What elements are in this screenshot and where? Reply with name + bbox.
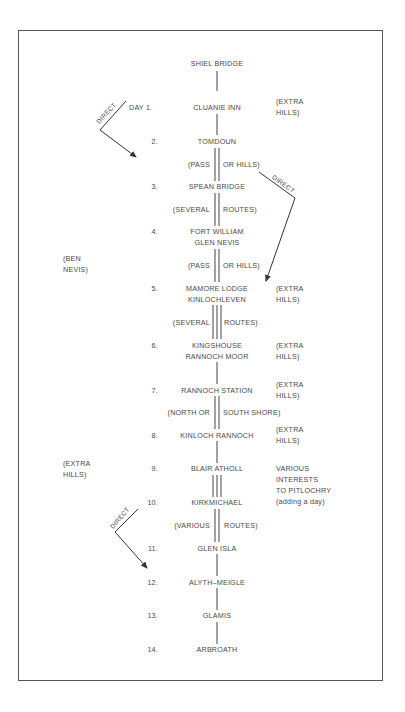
route-option-left-7: (VARIOUS xyxy=(174,520,210,531)
note-day9-b: INTERESTS xyxy=(276,474,318,485)
day-label-12: 12. xyxy=(147,577,158,588)
day-label-4: 4. xyxy=(152,226,158,237)
station-cluanie-inn: CLUANIE INN xyxy=(193,102,241,113)
station-tomdoun: TOMDOUN xyxy=(198,136,236,147)
note-day9-d: (adding a day) xyxy=(276,496,325,507)
station-kinlochleven: KINLOCHLEVEN xyxy=(188,294,246,305)
route-option-left-2: (SEVERAL xyxy=(173,204,210,215)
station-blair-atholl: BLAIR ATHOLL xyxy=(191,463,243,474)
route-option-left-1: (PASS xyxy=(188,159,210,170)
day-label-1: DAY 1. xyxy=(129,102,152,113)
station-kinloch-rannoch: KINLOCH RANNOCH xyxy=(180,430,253,441)
day-label-5: 5. xyxy=(152,283,158,294)
station-kingshouse: KINGSHOUSE xyxy=(192,340,242,351)
day-label-14: 14. xyxy=(147,644,158,655)
station-mamore-lodge: MAMORE LODGE xyxy=(186,283,248,294)
day-label-8: 8. xyxy=(152,430,158,441)
route-option-left-4: (SEVERAL xyxy=(173,317,210,328)
note-day7-b: HILLS) xyxy=(276,390,300,401)
station-rannoch-station: RANNOCH STATION xyxy=(181,385,252,396)
station-fort-william: FORT WILLIAM xyxy=(190,226,243,237)
note-day1-a: (EXTRA xyxy=(276,96,304,107)
note-day8-b: HILLS) xyxy=(276,435,300,446)
station-shiel-bridge: SHIEL BRIDGE xyxy=(191,58,243,69)
station-rannoch-moor: RANNOCH MOOR xyxy=(185,351,248,362)
left-note-ben-nevis-b: NEVIS) xyxy=(63,264,88,275)
note-day1-b: HILLS) xyxy=(276,107,300,118)
note-day6-a: (EXTRA xyxy=(276,340,304,351)
route-option-right-3: OR HILLS) xyxy=(223,260,260,271)
station-spean-bridge: SPEAN BRIDGE xyxy=(189,181,245,192)
station-glamis: GLAMIS xyxy=(203,610,231,621)
day-label-13: 13. xyxy=(147,610,158,621)
station-arbroath: ARBROATH xyxy=(196,644,237,655)
note-day5-a: (EXTRA xyxy=(276,283,304,294)
note-day9-c: TO PITLOCHRY xyxy=(276,485,331,496)
station-glen-nevis: GLEN NEVIS xyxy=(194,237,239,248)
route-option-right-4: ROUTES) xyxy=(224,317,258,328)
route-option-right-7: ROUTES) xyxy=(224,520,258,531)
left-note-extra-hills-a: (EXTRA xyxy=(63,458,91,469)
note-day5-b: HILLS) xyxy=(276,294,300,305)
route-option-left-5: (NORTH OR xyxy=(168,407,210,418)
route-option-right-2: ROUTES) xyxy=(223,204,257,215)
day-label-11: 11. xyxy=(148,543,158,554)
left-note-ben-nevis-a: (BEN xyxy=(63,253,81,264)
note-day8-a: (EXTRA xyxy=(276,424,304,435)
day-label-7: 7. xyxy=(152,385,158,396)
day-label-2: 2. xyxy=(152,136,158,147)
station-kirkmichael: KIRKMICHAEL xyxy=(192,497,243,508)
route-option-left-3: (PASS xyxy=(188,260,210,271)
note-day7-a: (EXTRA xyxy=(276,379,304,390)
note-day9-a: VARIOUS xyxy=(276,463,309,474)
day-label-10: 10. xyxy=(147,497,158,508)
day-label-9: 9. xyxy=(152,463,158,474)
note-day6-b: HILLS) xyxy=(276,351,300,362)
day-label-6: 6. xyxy=(152,340,158,351)
route-option-right-5: SOUTH SHORE) xyxy=(223,407,281,418)
left-note-extra-hills-b: HILLS) xyxy=(63,469,87,480)
station-alyth-meigle: ALYTH–MEIGLE xyxy=(189,577,245,588)
station-glen-isla: GLEN ISLA xyxy=(198,543,237,554)
route-option-right-1: OR HILLS) xyxy=(223,159,260,170)
day-label-3: 3. xyxy=(152,181,158,192)
